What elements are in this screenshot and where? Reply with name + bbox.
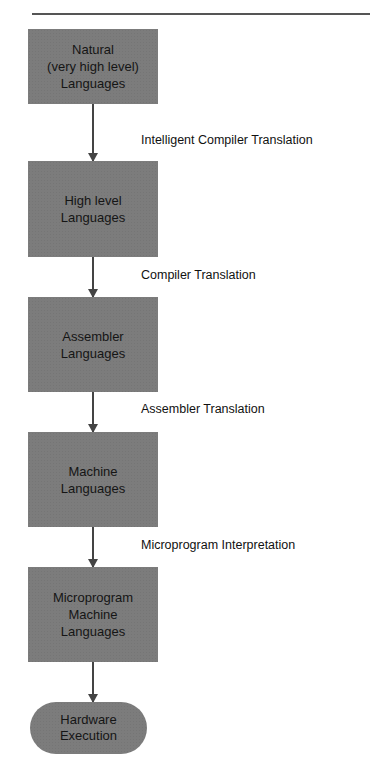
node-label: High level Languages	[61, 192, 125, 226]
edge-label-assembler: Assembler Translation	[141, 402, 265, 416]
node-label: Assembler Languages	[61, 328, 125, 362]
node-assembler-languages: Assembler Languages	[28, 297, 158, 392]
node-label: Machine Languages	[61, 463, 125, 497]
node-high-level-languages: High level Languages	[28, 161, 158, 257]
edge-label-intelligent-compiler: Intelligent Compiler Translation	[141, 133, 313, 147]
arrow-icon	[92, 257, 94, 297]
arrow-icon	[92, 392, 94, 432]
node-label: Hardware Execution	[60, 712, 117, 744]
arrow-icon	[92, 527, 94, 567]
edge-label-microprogram: Microprogram Interpretation	[141, 538, 295, 552]
title-rule	[32, 13, 370, 15]
node-hardware-execution: Hardware Execution	[30, 702, 147, 754]
arrow-icon	[92, 662, 94, 702]
node-label: Microprogram Machine Languages	[53, 589, 133, 640]
node-microprogram-machine-languages: Microprogram Machine Languages	[28, 567, 158, 662]
node-natural-languages: Natural (very high level) Languages	[28, 29, 158, 104]
node-label: Natural (very high level) Languages	[47, 41, 139, 92]
arrow-icon	[92, 104, 94, 161]
edge-label-compiler: Compiler Translation	[141, 268, 256, 282]
node-machine-languages: Machine Languages	[28, 432, 158, 527]
